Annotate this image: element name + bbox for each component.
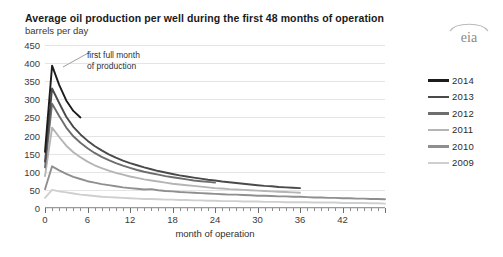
series-line-2012 [45,104,215,183]
x-axis-tick [328,208,329,211]
legend-label-2012: 2012 [452,108,474,119]
x-axis-tick [180,208,181,211]
y-axis-tick-label: 0 [0,203,40,214]
x-axis-labels: 06121824303642 [25,214,405,228]
series-line-2009 [45,190,385,204]
x-axis-tick [208,208,209,211]
annotation-first-full-month: first full month of production [87,50,140,71]
annotation-line-1: first full month [87,50,140,61]
x-axis-tick-label: 42 [337,214,348,225]
x-axis-tick [158,208,159,211]
y-axis-tick-label: 250 [0,112,40,123]
x-axis-tick [243,208,244,211]
legend-swatch-2011 [428,129,449,132]
x-axis-tick [300,208,301,213]
x-axis-tick [371,208,372,211]
x-axis-tick [109,208,110,211]
x-axis-tick [229,208,230,211]
x-axis-tick [286,208,287,211]
x-axis-title: month of operation [45,228,385,239]
x-axis-tick [66,208,67,211]
legend-swatch-2009 [428,162,449,165]
legend-swatch-2010 [428,145,449,148]
eia-logo: eia [446,20,492,46]
x-axis-tick [279,208,280,211]
x-axis-tick [357,208,358,211]
x-axis-tick-label: 30 [252,214,263,225]
y-axis-tick-label: 200 [0,130,40,141]
x-axis-tick [95,208,96,211]
legend-item-2012[interactable]: 2012 [428,105,498,122]
x-axis-tick [52,208,53,211]
x-axis-tick [102,208,103,211]
x-axis-ticks [45,208,385,213]
x-axis-tick [350,208,351,211]
x-axis-tick [144,208,145,211]
x-axis-tick [194,208,195,211]
x-axis-tick-label: 24 [210,214,221,225]
y-axis-tick-label: 100 [0,166,40,177]
chart-subtitle: barrels per day [25,25,88,36]
legend-label-2010: 2010 [452,141,474,152]
x-axis-tick [187,208,188,211]
chart-container: Average oil production per well during t… [0,0,503,257]
x-axis-tick [378,208,379,211]
x-axis-tick [130,208,131,213]
x-axis-tick [272,208,273,211]
x-axis-tick [314,208,315,211]
x-axis-tick [151,208,152,211]
x-axis-tick [215,208,216,213]
y-axis-tick-label: 350 [0,76,40,87]
annotation-line-2: of production [87,61,140,72]
x-axis-tick [321,208,322,211]
x-axis-tick-label: 18 [167,214,178,225]
x-axis-tick-label: 12 [125,214,136,225]
legend-swatch-2012 [428,112,449,115]
x-axis-tick [343,208,344,213]
x-axis-tick [73,208,74,211]
legend-label-2013: 2013 [452,91,474,102]
legend-item-2014[interactable]: 2014 [428,72,498,89]
legend-label-2011: 2011 [452,124,473,135]
x-axis-tick-label: 0 [42,214,47,225]
x-axis-tick [137,208,138,211]
legend-swatch-2014 [428,79,449,82]
x-axis-tick [293,208,294,211]
x-axis-tick [80,208,81,211]
x-axis-tick [364,208,365,211]
x-axis-tick [335,208,336,211]
x-axis-tick [123,208,124,211]
x-axis-tick [250,208,251,211]
legend-item-2009[interactable]: 2009 [428,155,498,172]
x-axis-tick [116,208,117,211]
legend-label-2014: 2014 [452,75,474,86]
x-axis-tick [59,208,60,211]
x-axis-tick [165,208,166,211]
x-axis-tick [385,208,386,213]
x-axis-tick [88,208,89,213]
legend-swatch-2013 [428,96,449,99]
eia-logo-text: eia [461,30,478,45]
y-axis-tick-label: 150 [0,148,40,159]
x-axis-tick [236,208,237,211]
x-axis-tick-label: 6 [85,214,90,225]
x-axis-tick-label: 36 [295,214,306,225]
x-axis-tick [45,208,46,213]
x-axis-tick [222,208,223,211]
legend-label-2009: 2009 [452,157,474,168]
y-axis-tick-label: 450 [0,40,40,51]
series-line-2013 [45,88,300,188]
x-axis-tick [258,208,259,213]
legend-item-2010[interactable]: 2010 [428,138,498,155]
x-axis-tick [201,208,202,211]
legend-item-2011[interactable]: 2011 [428,122,498,139]
x-axis-tick [173,208,174,213]
y-axis-labels: 450400350300250200150100500 [0,39,40,214]
legend: 201420132012201120102009 [428,72,498,171]
legend-item-2013[interactable]: 2013 [428,89,498,106]
x-axis-tick [265,208,266,211]
x-axis-tick [307,208,308,211]
chart-title: Average oil production per well during t… [25,12,384,24]
y-axis-tick-label: 300 [0,94,40,105]
y-axis-tick-label: 400 [0,58,40,69]
